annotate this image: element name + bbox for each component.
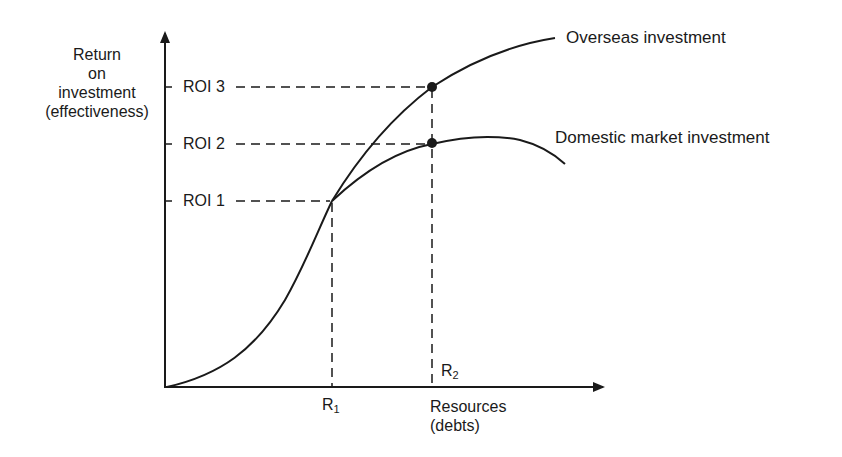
tick-label-r1-main: R [322, 396, 334, 413]
diagram-canvas: Return on investment (effectiveness) ROI… [0, 0, 842, 457]
tick-label-roi1: ROI 1 [183, 192, 225, 210]
tick-label-r1: R1 [322, 396, 340, 418]
curve-domestic-investment [332, 137, 565, 201]
x-axis-title-line: (debts) [430, 416, 506, 435]
tick-label-r1-sub: 1 [334, 403, 340, 415]
curve-overseas-investment [332, 38, 555, 201]
curve-label-overseas: Overseas investment [566, 29, 726, 47]
y-axis-title-line: investment [26, 83, 168, 102]
y-axis-title-line: (effectiveness) [26, 102, 168, 121]
tick-label-r2-main: R [441, 362, 453, 379]
curve-initial-segment [167, 201, 332, 387]
y-axis-title-line: on [26, 64, 168, 83]
y-axis-title-line: Return [26, 45, 168, 64]
tick-label-roi3: ROI 3 [183, 78, 225, 96]
curve-label-domestic: Domestic market investment [555, 129, 769, 147]
tick-label-r2-sub: 2 [453, 369, 459, 381]
tick-label-r2: R2 [441, 362, 459, 384]
x-axis-title: Resources (debts) [430, 397, 506, 435]
x-axis-title-line: Resources [430, 397, 506, 416]
y-axis-title: Return on investment (effectiveness) [26, 45, 168, 121]
point-r2-roi2 [427, 138, 437, 148]
tick-label-roi2: ROI 2 [183, 135, 225, 153]
point-r2-roi3 [427, 82, 437, 92]
